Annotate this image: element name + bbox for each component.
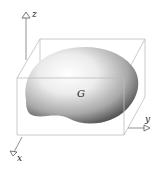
z-axis bbox=[22, 12, 30, 60]
region-label: G bbox=[77, 88, 85, 99]
solid-region-g bbox=[25, 47, 138, 124]
x-arrow-icon bbox=[10, 151, 17, 156]
y-axis-label: y bbox=[144, 114, 151, 124]
x-axis-label: x bbox=[17, 153, 22, 163]
y-arrow-icon bbox=[144, 125, 150, 131]
z-axis-label: z bbox=[31, 9, 37, 19]
diagram-canvas: z y x G bbox=[0, 0, 160, 170]
z-arrow-icon bbox=[22, 12, 30, 18]
y-axis bbox=[128, 125, 150, 131]
